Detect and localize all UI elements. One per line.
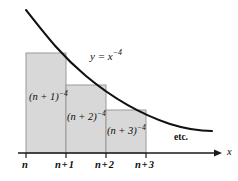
rectangle-group xyxy=(26,53,146,153)
tick-label-offset: 1 xyxy=(69,159,74,170)
x-axis-arrowhead xyxy=(214,150,222,157)
tick-label-n-plus-3: n+3 xyxy=(135,160,154,171)
rectangle-label-n-plus-3: (n + 3)−4 xyxy=(107,126,146,137)
tick-label-text: n xyxy=(55,159,61,170)
rectangle-label-base: (n + 3) xyxy=(107,125,137,136)
curve-equation-exponent: −4 xyxy=(113,48,122,57)
rectangle-label-exponent: −4 xyxy=(137,123,146,132)
riemann-sum-figure: y = x−4 (n + 1)−4 (n + 2)−4 (n + 3)−4 et… xyxy=(0,0,238,181)
tick-label-text: n xyxy=(95,159,101,170)
rectangle-label-exponent: −4 xyxy=(59,89,68,98)
rectangle-label-n-plus-2: (n + 2)−4 xyxy=(67,112,106,123)
etc-annotation: etc. xyxy=(174,133,188,143)
rectangle-label-n-plus-1: (n + 1)−4 xyxy=(29,92,68,103)
tick-label-n-plus-1: n+1 xyxy=(55,160,74,171)
x-axis-label: x xyxy=(227,147,232,158)
tick-label-text: n xyxy=(135,159,141,170)
rectangle-label-base: (n + 2) xyxy=(67,111,97,122)
curve-equation-label: y = x−4 xyxy=(90,51,122,62)
rectangle-label-base: (n + 1) xyxy=(29,91,59,102)
tick-label-n: n xyxy=(22,160,28,171)
tick-label-plus-sign: + xyxy=(101,159,109,170)
curve-equation-base: y = x xyxy=(90,50,113,62)
rectangle-label-exponent: −4 xyxy=(97,109,106,118)
tick-label-offset: 3 xyxy=(149,159,154,170)
tick-label-plus-sign: + xyxy=(61,159,69,170)
rectangle-n-plus-1 xyxy=(26,53,66,153)
tick-label-plus-sign: + xyxy=(141,159,149,170)
tick-label-offset: 2 xyxy=(109,159,114,170)
axis-tick-marks xyxy=(26,153,146,158)
tick-label-n-plus-2: n+2 xyxy=(95,160,114,171)
tick-label-text: n xyxy=(22,159,28,170)
